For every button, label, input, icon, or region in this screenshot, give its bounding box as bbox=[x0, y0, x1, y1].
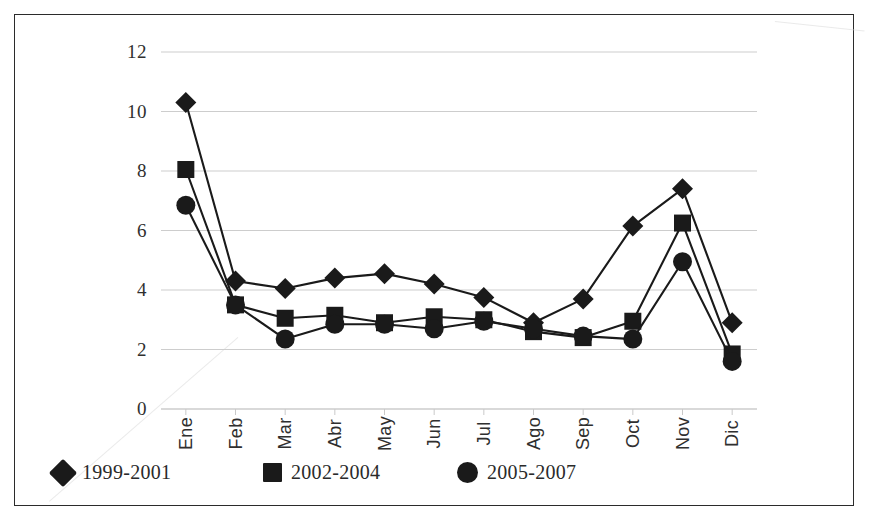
x-axis-tick-label: Dic bbox=[722, 420, 743, 447]
chart-legend: 1999-20012002-20042005-2007 bbox=[15, 445, 853, 505]
legend-item-2005-2007[interactable]: 2005-2007 bbox=[457, 461, 576, 484]
y-axis-tick-label: 4 bbox=[107, 279, 147, 301]
x-axis-tick-label: Jun bbox=[424, 419, 445, 449]
data-point-marker bbox=[722, 312, 743, 333]
y-axis-tick-label: 10 bbox=[107, 101, 147, 123]
chart-series-circle bbox=[176, 196, 741, 371]
data-point-marker bbox=[573, 288, 594, 309]
data-point-marker bbox=[374, 263, 395, 284]
data-point-marker bbox=[723, 352, 742, 371]
data-point-marker bbox=[275, 278, 296, 299]
data-point-marker bbox=[175, 92, 196, 113]
data-point-marker bbox=[622, 216, 643, 237]
data-point-marker bbox=[574, 327, 593, 346]
data-point-marker bbox=[672, 178, 693, 199]
data-point-marker bbox=[624, 313, 641, 330]
chart-figure: 121086420 EneFebMarAbrMayJunJulAgoSepOct… bbox=[14, 14, 854, 506]
data-point-marker bbox=[375, 315, 394, 334]
data-point-marker bbox=[277, 310, 294, 327]
circle-marker-icon bbox=[457, 462, 478, 483]
x-axis-tick-label: Oct bbox=[622, 419, 643, 448]
legend-label: 2005-2007 bbox=[487, 461, 576, 484]
data-point-marker bbox=[226, 295, 245, 314]
data-point-marker bbox=[177, 161, 194, 178]
y-axis-tick-label: 0 bbox=[107, 398, 147, 420]
data-point-marker bbox=[176, 196, 195, 215]
chart-series-square bbox=[177, 161, 740, 362]
legend-label: 2002-2004 bbox=[291, 461, 380, 484]
data-point-marker bbox=[673, 252, 692, 271]
data-point-marker bbox=[623, 330, 642, 349]
y-axis-tick-label: 12 bbox=[107, 41, 147, 63]
data-point-marker bbox=[324, 268, 345, 289]
x-axis-tick-label: Abr bbox=[324, 419, 345, 448]
data-point-marker bbox=[325, 315, 344, 334]
data-point-marker bbox=[425, 319, 444, 338]
legend-item-1999-2001[interactable]: 1999-2001 bbox=[53, 461, 171, 484]
series-line bbox=[186, 205, 732, 361]
y-axis-tick-label: 8 bbox=[107, 160, 147, 182]
data-point-marker bbox=[424, 274, 445, 295]
y-axis-tick-label: 2 bbox=[107, 339, 147, 361]
data-point-marker bbox=[276, 330, 295, 349]
diamond-marker-icon bbox=[49, 458, 77, 486]
data-point-marker bbox=[524, 319, 543, 338]
square-marker-icon bbox=[263, 463, 282, 482]
data-point-marker bbox=[674, 215, 691, 232]
data-point-marker bbox=[474, 312, 493, 331]
chart-series-diamond bbox=[175, 92, 742, 333]
x-axis-tick-label: Jul bbox=[473, 422, 494, 446]
legend-label: 1999-2001 bbox=[82, 461, 171, 484]
legend-item-2002-2004[interactable]: 2002-2004 bbox=[263, 461, 380, 484]
y-axis-tick-label: 6 bbox=[107, 220, 147, 242]
